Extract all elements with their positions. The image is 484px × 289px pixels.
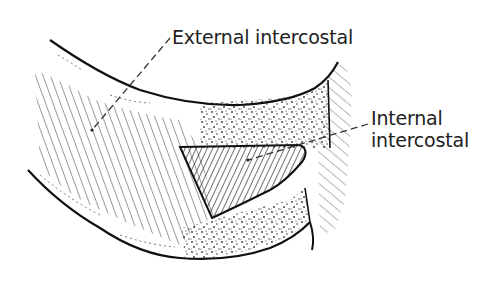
label-internal-line1: Internal (371, 107, 469, 129)
label-internal-line2: intercostal (371, 129, 469, 151)
label-internal-intercostal: Internal intercostal (371, 107, 469, 151)
label-external-intercostal: External intercostal (172, 26, 353, 48)
